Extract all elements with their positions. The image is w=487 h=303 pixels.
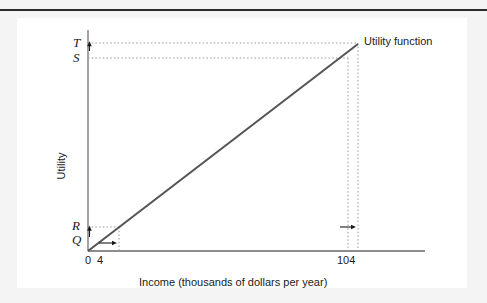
utility-function-curve <box>88 44 358 251</box>
y-axis-title-wrapper: Utility <box>53 140 67 200</box>
top-divider-rule <box>0 9 487 11</box>
x-tick-label-104: 104 <box>337 254 355 266</box>
y-axis-title: Utility <box>55 142 67 190</box>
x-axis-title: Income (thousands of dollars per year) <box>139 276 327 288</box>
level-label-q: Q <box>72 232 81 248</box>
series-label-utility-function: Utility function <box>364 35 432 47</box>
level-label-s: S <box>73 50 80 66</box>
figure-panel: T S R Q 0 4 104 Utility function Income … <box>17 18 467 288</box>
utility-function-plot <box>17 18 467 288</box>
x-tick-label-0: 0 <box>85 254 91 266</box>
level-label-t: T <box>73 35 80 51</box>
screenshot-root: T S R Q 0 4 104 Utility function Income … <box>0 0 487 303</box>
x-tick-label-4: 4 <box>97 254 103 266</box>
